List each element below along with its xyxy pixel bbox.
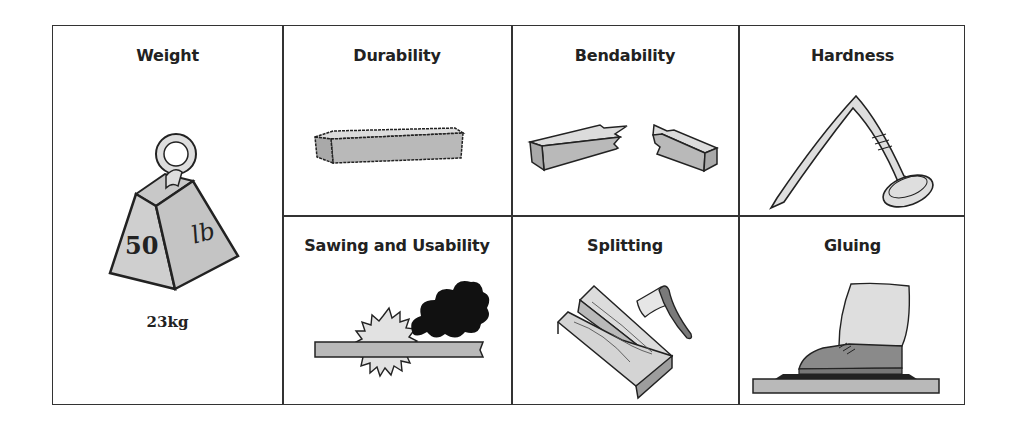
saw-blade-smoke-icon: [283, 216, 511, 404]
shoe-pressing-board-icon: [739, 216, 966, 404]
weight-icon: 50 lb: [53, 26, 282, 404]
wood-plank-icon: [283, 26, 511, 215]
cell-weight: Weight 50 lb 23kg: [53, 26, 282, 404]
cell-bendability: Bendability: [512, 26, 738, 215]
cell-gluing: Gluing: [739, 216, 966, 404]
cell-hardness: Hardness: [739, 26, 966, 215]
cell-durability: Durability: [283, 26, 511, 215]
weight-caption: 23kg: [53, 313, 282, 331]
split-log-axe-icon: [512, 216, 738, 404]
cell-sawing-usability: Sawing and Usability: [283, 216, 511, 404]
properties-grid: Weight 50 lb 23kg Durability Bendabili: [52, 25, 965, 405]
broken-plank-icon: [512, 26, 738, 215]
bent-nail-icon: [739, 26, 966, 215]
cell-splitting: Splitting: [512, 216, 738, 404]
svg-text:50: 50: [125, 231, 158, 260]
